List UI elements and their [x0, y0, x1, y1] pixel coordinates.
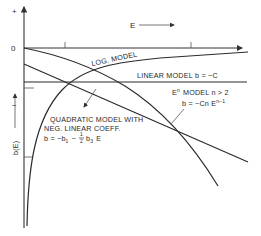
model-comparison-diagram: + 0 − b(E) E LINEAR MODEL b = −C LOG. MO… [0, 0, 261, 236]
y-minus-label: − [12, 101, 17, 110]
quadratic-label-line1: QUADRATIC MODEL WITH [50, 115, 143, 124]
linear-model-formula: b = −C [195, 71, 218, 80]
en-model-label: EnMODEL n > 2 [172, 87, 229, 97]
quadratic-leader-arrow-icon [84, 89, 96, 107]
x-axis-title: E [130, 21, 135, 30]
linear-model-curve: LINEAR MODEL b = −C [24, 71, 247, 82]
y-zero-label: 0 [11, 44, 16, 53]
x-axis: E [24, 21, 242, 48]
y-axis-title: b(E) [11, 141, 20, 155]
quadratic-formula: b = −b1− [44, 134, 76, 144]
y-plus-label: + [12, 7, 17, 16]
quadratic-frac-num: 1 [80, 131, 83, 137]
quadratic-frac-den: 2 [80, 138, 83, 144]
linear-model-label: LINEAR MODEL [137, 71, 193, 80]
quadratic-formula-tail: b3E [86, 134, 101, 144]
log-model-label: LOG. MODEL [91, 49, 139, 68]
en-model-formula: b = −Cn En−1 [182, 98, 225, 108]
en-model-leader-line [171, 109, 184, 124]
y-axis: + 0 − b(E) [11, 7, 34, 228]
